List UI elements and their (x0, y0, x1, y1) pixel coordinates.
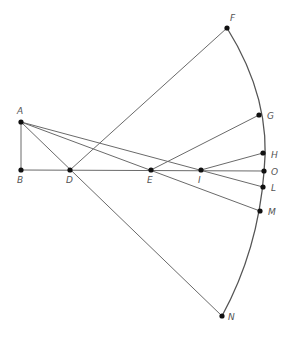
geometric-diagram: A B D E I O F G H L M N (0, 0, 291, 342)
label-e: E (147, 175, 153, 185)
label-g: G (267, 111, 274, 121)
segment-an (21, 122, 222, 316)
point-l (260, 184, 265, 189)
label-m: M (268, 207, 276, 217)
label-n: N (228, 312, 235, 322)
point-m (257, 208, 262, 213)
point-h (260, 150, 265, 155)
segment-eg (151, 115, 259, 170)
label-f: F (230, 13, 236, 23)
point-a (18, 119, 23, 124)
label-o: O (271, 167, 278, 177)
arc-fn (222, 28, 265, 316)
label-b: B (17, 175, 23, 185)
point-g (256, 112, 261, 117)
segment-am (21, 122, 260, 211)
segment-ih (201, 153, 263, 170)
point-i (198, 167, 203, 172)
label-l: L (271, 183, 276, 193)
label-a: A (16, 106, 23, 116)
point-b (18, 167, 23, 172)
label-d: D (66, 175, 73, 185)
point-n (219, 313, 224, 318)
point-e (148, 167, 153, 172)
segment-bo (21, 170, 264, 171)
point-f (224, 25, 229, 30)
point-d (67, 167, 72, 172)
label-i: I (198, 175, 201, 185)
point-o (261, 168, 266, 173)
label-h: H (271, 150, 278, 160)
